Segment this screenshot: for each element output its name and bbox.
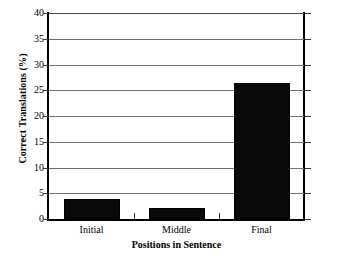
y-axis-tick-mark (43, 116, 48, 117)
bar-middle (149, 208, 205, 219)
x-axis-tick-mark (134, 213, 135, 219)
y-axis-tick-mark (43, 13, 48, 14)
y-axis-tick-label: 10 (0, 163, 44, 173)
y-axis-tick-label: 0 (0, 214, 44, 224)
y-axis-tick-mark (43, 39, 48, 40)
gridline (49, 65, 304, 66)
x-axis-tick-label: Initial (49, 224, 134, 236)
x-axis-tick-label: Middle (134, 224, 219, 236)
bar-final (234, 83, 290, 219)
y-axis-tick-label: 25 (0, 85, 44, 95)
y-axis-tick-mark (43, 168, 48, 169)
x-axis-title: Positions in Sentence (49, 239, 304, 250)
y-axis-tick-label: 40 (0, 8, 44, 18)
y-axis-tick-mark-right (305, 13, 311, 14)
bar-initial (64, 199, 120, 219)
y-axis-tick-mark-right (305, 65, 311, 66)
y-axis-tick-mark-right (305, 219, 311, 220)
x-axis-tick-mark (219, 213, 220, 219)
y-axis-tick-mark (43, 142, 48, 143)
y-axis-tick-mark (43, 65, 48, 66)
bar-chart: Correct Translations (%) 051015202530354… (0, 0, 337, 270)
gridline (49, 13, 304, 14)
y-axis-tick-mark (43, 90, 48, 91)
y-axis-tick-mark (43, 193, 48, 194)
y-axis-tick-mark-right (305, 39, 311, 40)
y-axis-tick-label: 15 (0, 137, 44, 147)
y-axis-tick-mark-right (305, 116, 311, 117)
x-axis-line (47, 219, 305, 221)
y-axis-tick-mark (43, 219, 48, 220)
y-axis-tick-label: 35 (0, 34, 44, 44)
y-axis-tick-mark-right (305, 90, 311, 91)
y-axis-tick-label: 5 (0, 188, 44, 198)
y-axis-tick-mark-right (305, 193, 311, 194)
gridline (49, 39, 304, 40)
x-axis-tick-label: Final (219, 224, 304, 236)
y-axis-tick-labels: 0510152025303540 (0, 0, 44, 270)
y-axis-tick-mark-right (305, 168, 311, 169)
y-axis-tick-label: 30 (0, 60, 44, 70)
y-axis-tick-mark-right (305, 142, 311, 143)
y-axis-tick-label: 20 (0, 111, 44, 121)
